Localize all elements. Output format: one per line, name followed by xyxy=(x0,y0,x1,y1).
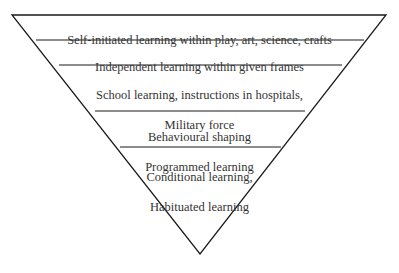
level-5-label: Conditional learning, Habituated learnin… xyxy=(0,155,399,230)
level-2-text: Independent learning within given frames xyxy=(95,60,304,74)
level-1-label: Self-initiated learning within play, art… xyxy=(0,18,399,48)
level-2-label: Independent learning within given frames xyxy=(0,45,399,75)
level-4-text-line-1: Behavioural shaping xyxy=(0,130,399,145)
level-5-text-line-1: Conditional learning, xyxy=(0,170,399,185)
level-3-text-line-1: School learning, instructions in hospita… xyxy=(0,88,399,103)
level-5-text-line-2: Habituated learning xyxy=(0,200,399,215)
